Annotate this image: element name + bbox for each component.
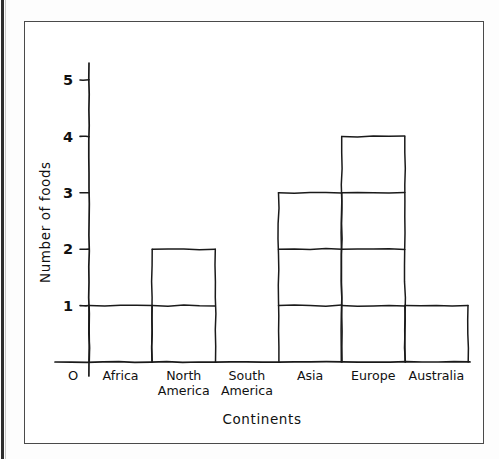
y-tick-label-1: 1 <box>63 298 73 314</box>
bar-north-america <box>152 249 216 362</box>
bar-top <box>279 192 342 193</box>
x-axis-title: Continents <box>222 411 301 427</box>
bar-asia <box>278 192 342 362</box>
bar-gridline-2 <box>342 249 405 250</box>
bar-gridline-2 <box>279 249 342 250</box>
x-tick-label-3-line1: Asia <box>297 368 323 383</box>
bar-chart: 12345AfricaNorthAmericaSouthAmericaAsiaE… <box>0 0 499 459</box>
bar-left <box>278 193 279 362</box>
y-tick-label-4: 4 <box>63 129 73 145</box>
bar-left <box>405 306 406 362</box>
bar-left <box>89 306 90 362</box>
origin-label: O <box>68 368 78 383</box>
chart-page: 12345AfricaNorthAmericaSouthAmericaAsiaE… <box>0 0 499 459</box>
bar-gridline-1 <box>342 305 405 306</box>
bar-top <box>405 305 468 306</box>
bar-gridline-1 <box>279 305 342 306</box>
x-tick-label-5-line1: Australia <box>409 368 465 383</box>
x-tick-label-0-line1: Africa <box>103 368 139 383</box>
y-tick-label-2: 2 <box>63 241 73 257</box>
bar-top <box>342 136 405 137</box>
x-tick-label-2-line1: South <box>229 368 266 383</box>
y-tick-label-5: 5 <box>63 72 73 88</box>
y-tick-label-3: 3 <box>63 185 73 201</box>
x-tick-label-4-line1: Europe <box>351 368 396 383</box>
x-axis-line <box>55 362 470 363</box>
x-tick-label-1-line1: North <box>166 368 201 383</box>
bar-gridline-3 <box>342 193 405 194</box>
bar-africa <box>89 305 152 362</box>
bar-right <box>468 306 469 362</box>
bar-gridline-1 <box>152 305 215 306</box>
bar-europe <box>341 136 405 362</box>
bar-top <box>152 249 215 250</box>
y-axis-title: Number of foods <box>37 161 53 283</box>
x-tick-label-2-line2: America <box>221 383 273 398</box>
bar-top <box>89 305 152 306</box>
bar-australia <box>405 305 469 362</box>
x-tick-label-1-line2: America <box>158 383 210 398</box>
